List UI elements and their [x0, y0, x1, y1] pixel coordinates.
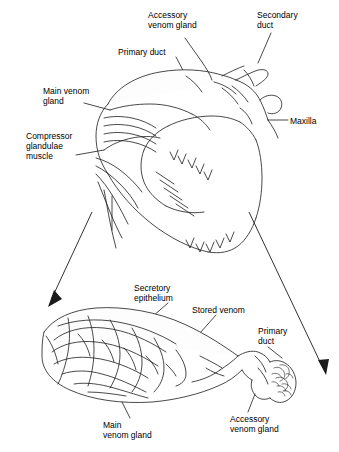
label-secondary-duct: Secondary duct: [257, 10, 298, 30]
label-compressor-glandulae-muscle: Compressor glandulae muscle: [26, 131, 72, 161]
label-accessory-venom-gland-top: Accessory venom gland: [148, 10, 197, 30]
label-accessory-venom-gland-bottom: Accessory venom gland: [230, 414, 279, 434]
label-primary-duct-bottom: Primary duct: [258, 326, 287, 346]
label-maxilla: Maxilla: [290, 116, 316, 126]
label-primary-duct-top: Primary duct: [118, 47, 166, 57]
label-stored-venom: Stored venom: [192, 305, 245, 315]
label-main-venom-gland-bottom: Main venom gland: [103, 420, 152, 440]
diagram-background: [0, 0, 339, 452]
label-secretory-epithelium: Secretory epithelium: [134, 283, 173, 303]
venom-apparatus-diagram: [0, 0, 339, 452]
label-main-venom-gland-top: Main venom gland: [43, 86, 89, 106]
